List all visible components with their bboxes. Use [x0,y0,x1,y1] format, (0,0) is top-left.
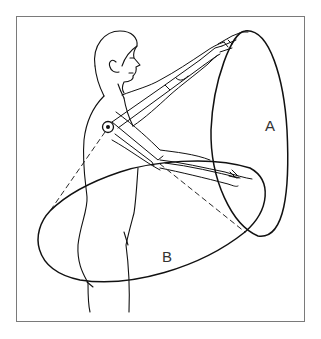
label-a: A [265,118,275,133]
raised-arm [112,32,248,128]
torso-outline [78,84,138,312]
ellipse-a-path [211,31,288,236]
lowered-arm [112,112,252,186]
head-outline [95,31,140,96]
shoulder-joint-marker [103,122,114,133]
label-b: B [162,249,172,264]
shoulder-circumduction-diagram [0,0,321,339]
dashed-radius-lines [50,132,245,232]
